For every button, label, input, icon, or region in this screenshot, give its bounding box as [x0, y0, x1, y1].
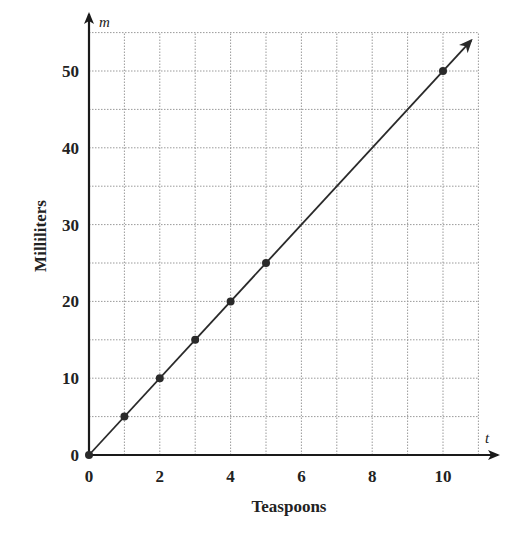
line-chart: 024681001020304050 m t Teaspoons Millili… — [0, 0, 509, 536]
y-variable-label: m — [99, 14, 110, 30]
data-point — [120, 413, 128, 421]
data-point — [85, 451, 93, 459]
x-tick-label: 10 — [435, 467, 452, 486]
y-tick-label: 20 — [62, 292, 79, 311]
x-variable-label: t — [485, 430, 490, 446]
y-tick-label: 10 — [62, 369, 79, 388]
data-point — [262, 259, 270, 267]
y-tick-label: 0 — [71, 446, 80, 465]
data-point — [191, 336, 199, 344]
y-tick-label: 30 — [62, 216, 79, 235]
x-tick-label: 2 — [156, 467, 165, 486]
series-line — [89, 40, 471, 455]
x-axis-title: Teaspoons — [252, 497, 327, 516]
data-series — [85, 40, 471, 459]
data-point — [439, 67, 447, 75]
y-tick-label: 50 — [62, 62, 79, 81]
y-axis-title: Milliliters — [31, 200, 50, 272]
x-tick-label: 4 — [226, 467, 235, 486]
x-tick-label: 6 — [297, 467, 306, 486]
x-tick-label: 8 — [368, 467, 377, 486]
y-tick-label: 40 — [62, 139, 79, 158]
x-tick-label: 0 — [85, 467, 94, 486]
data-point — [227, 297, 235, 305]
data-point — [156, 374, 164, 382]
